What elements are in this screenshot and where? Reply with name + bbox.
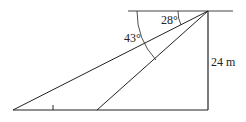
diagram-canvas: 28° 43° 24 m <box>0 0 246 122</box>
line-of-sight-far <box>13 11 208 110</box>
angle-arc-28 <box>178 11 181 25</box>
angle-label-43: 43° <box>124 31 141 45</box>
line-of-sight-near <box>97 11 208 110</box>
angle-label-28: 28° <box>161 13 178 27</box>
height-label: 24 m <box>211 55 236 69</box>
